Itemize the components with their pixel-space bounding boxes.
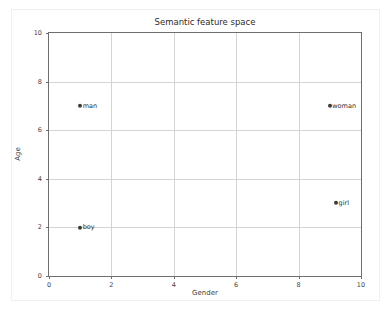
y-axis-tick-label: 0 (38, 272, 42, 280)
gridline-vertical (111, 33, 112, 276)
y-axis-label: Age (14, 147, 22, 161)
x-axis-tick-label: 6 (234, 281, 238, 289)
y-axis-tick-label: 8 (38, 78, 42, 86)
gridline-horizontal (49, 130, 361, 131)
data-point-label: girl (339, 200, 349, 207)
x-axis-tick-label: 0 (47, 281, 51, 289)
plot-area: 02468100246810manwomangirlboy (48, 32, 362, 277)
data-point: man (78, 103, 97, 110)
x-axis-tick-label: 2 (109, 281, 113, 289)
x-axis-tick-label: 4 (172, 281, 176, 289)
data-point-marker (334, 201, 338, 205)
data-point-label: woman (332, 103, 356, 110)
y-axis-tick-label: 10 (34, 29, 42, 37)
gridline-vertical (299, 33, 300, 276)
x-axis-tick (174, 276, 175, 279)
x-axis-tick-label: 8 (297, 281, 301, 289)
data-point-marker (328, 104, 332, 108)
y-axis-tick-label: 2 (38, 223, 42, 231)
gridline-horizontal (49, 82, 361, 83)
x-axis-tick-label: 10 (357, 281, 365, 289)
data-point: boy (78, 224, 94, 231)
x-axis-tick (299, 276, 300, 279)
gridline-horizontal (49, 179, 361, 180)
x-axis-tick (49, 276, 50, 279)
chart-title: Semantic feature space (48, 17, 362, 27)
figure-canvas: Semantic feature space Age Gender 024681… (11, 9, 380, 301)
data-point-marker (78, 225, 82, 229)
gridline-horizontal (49, 227, 361, 228)
gridline-vertical (174, 33, 175, 276)
data-point-label: man (83, 103, 97, 110)
y-axis-tick (46, 227, 49, 228)
y-axis-tick (46, 130, 49, 131)
data-point-marker (78, 104, 82, 108)
data-point: girl (334, 200, 349, 207)
data-point: woman (328, 103, 356, 110)
y-axis-tick (46, 33, 49, 34)
gridline-vertical (236, 33, 237, 276)
data-point-label: boy (83, 224, 95, 231)
y-axis-tick (46, 276, 49, 277)
y-axis-tick (46, 82, 49, 83)
x-axis-tick (361, 276, 362, 279)
y-axis-tick (46, 179, 49, 180)
x-axis-tick (111, 276, 112, 279)
x-axis-tick (236, 276, 237, 279)
y-axis-tick-label: 4 (38, 175, 42, 183)
x-axis-label: Gender (48, 289, 362, 297)
y-axis-tick-label: 6 (38, 126, 42, 134)
